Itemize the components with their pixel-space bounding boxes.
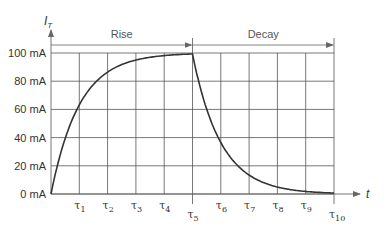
x-tick-label: τ5	[188, 208, 199, 223]
x-tick-label: τ6	[216, 199, 227, 214]
x-tick-label: τ8	[272, 199, 283, 214]
x-tick-label: τ3	[131, 199, 142, 214]
phase-annotations: RiseDecay	[51, 28, 333, 45]
grid-lines	[51, 38, 334, 204]
x-tick-label: τ7	[244, 199, 255, 214]
axes	[51, 30, 360, 194]
x-tick-label: τ1	[74, 199, 85, 214]
phase-label: Decay	[248, 28, 280, 40]
y-axis-label: IT	[44, 14, 53, 30]
y-tick-label: 0 mA	[20, 188, 46, 200]
y-tick-label: 100 mA	[8, 47, 47, 59]
rc-time-constant-chart: 0 mA20 mA40 mA60 mA80 mA100 mA τ1τ2τ3τ4τ…	[0, 0, 388, 235]
phase-label: Rise	[111, 28, 133, 40]
x-tick-label: τ2	[103, 199, 114, 214]
y-tick-label: 20 mA	[14, 160, 46, 172]
y-axis-tick-labels: 0 mA20 mA40 mA60 mA80 mA100 mA	[8, 47, 47, 200]
y-tick-label: 40 mA	[14, 132, 46, 144]
y-tick-label: 80 mA	[14, 75, 46, 87]
x-axis-tick-labels: τ1τ2τ3τ4τ5τ6τ7τ8τ9τ10	[74, 199, 345, 223]
x-tick-label: τ4	[159, 199, 170, 214]
y-tick-label: 60 mA	[14, 103, 46, 115]
x-axis-label: t	[366, 187, 370, 201]
x-tick-label: τ10	[329, 208, 345, 223]
x-tick-label: τ9	[301, 199, 312, 214]
